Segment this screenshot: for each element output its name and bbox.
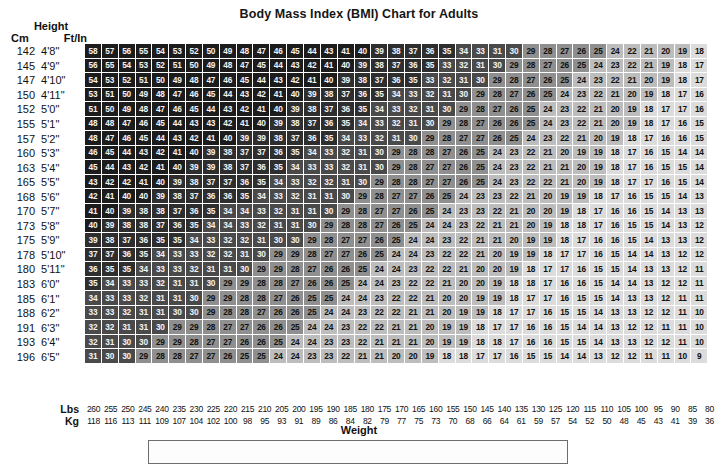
bmi-cell: 18: [557, 233, 574, 248]
bmi-cell: 16: [573, 277, 590, 292]
bmi-cell: 25: [523, 117, 540, 132]
bmi-cell: 38: [321, 88, 338, 103]
bmi-cell: 19: [573, 189, 590, 204]
bmi-cell: 15: [641, 204, 658, 219]
bmi-cell: 42: [152, 146, 169, 161]
table-row: 1525'0"515049484746454443424140393837363…: [0, 102, 708, 117]
bmi-cell: 32: [338, 146, 355, 161]
bmi-cell: 23: [506, 160, 523, 175]
bmi-cell: 27: [371, 219, 388, 234]
bmi-cell: 14: [691, 160, 708, 175]
bmi-cell: 32: [456, 59, 473, 74]
bmi-cell: 31: [169, 277, 186, 292]
bmi-cell: 21: [489, 219, 506, 234]
height-ftin-value: 5'10": [41, 249, 83, 261]
bmi-cell: 20: [456, 277, 473, 292]
bmi-cell: 23: [338, 335, 355, 350]
bmi-cell: 45: [186, 102, 203, 117]
height-row-label: 1856'1": [0, 291, 85, 306]
bmi-cell: 15: [675, 175, 692, 190]
bmi-cell: 23: [590, 73, 607, 88]
bmi-cell: 49: [220, 44, 237, 59]
bmi-cell: 18: [658, 88, 675, 103]
height-cm-value: 170: [0, 205, 41, 217]
height-row-label: 1685'6": [0, 189, 85, 204]
bmi-cell: 44: [119, 146, 136, 161]
table-row: 1454'9"565554535251504948474544434241403…: [0, 59, 708, 74]
height-row-label: 1966'5": [0, 349, 85, 364]
bmi-cell: 11: [691, 262, 708, 277]
bmi-cell: 33: [371, 117, 388, 132]
bmi-cell: 19: [557, 204, 574, 219]
bmi-cell: 54: [85, 73, 102, 88]
bmi-cell: 32: [85, 320, 102, 335]
bmi-cell: 33: [287, 175, 304, 190]
bmi-cell: 34: [186, 233, 203, 248]
bmi-cell: 46: [169, 102, 186, 117]
bmi-row-cells: 3333323131303029282827262625242423222221…: [85, 306, 708, 321]
bmi-cell: 13: [607, 335, 624, 350]
bmi-cell: 28: [405, 146, 422, 161]
bmi-cell: 33: [237, 219, 254, 234]
bmi-cell: 23: [388, 277, 405, 292]
bmi-cell: 29: [186, 320, 203, 335]
bmi-cell: 26: [557, 59, 574, 74]
height-cm-value: 191: [0, 322, 41, 334]
bmi-cell: 31: [304, 204, 321, 219]
bmi-cell: 23: [506, 175, 523, 190]
bmi-cell: 13: [691, 204, 708, 219]
bmi-cell: 11: [641, 349, 658, 364]
bmi-cell: 31: [405, 117, 422, 132]
bmi-cell: 42: [102, 175, 119, 190]
bmi-cell: 35: [203, 204, 220, 219]
weight-tick: 185: [342, 404, 359, 414]
bmi-cell: 18: [540, 248, 557, 263]
bmi-cell: 20: [472, 277, 489, 292]
bmi-cell: 23: [607, 59, 624, 74]
bmi-cell: 28: [371, 189, 388, 204]
bmi-cell: 44: [203, 102, 220, 117]
bmi-cell: 42: [220, 117, 237, 132]
bmi-cell: 57: [102, 44, 119, 59]
bmi-cell: 32: [388, 117, 405, 132]
bmi-cell: 19: [523, 248, 540, 263]
bmi-cell: 30: [304, 219, 321, 234]
bmi-cell: 29: [136, 349, 153, 364]
bmi-cell: 15: [590, 291, 607, 306]
bmi-cell: 18: [523, 277, 540, 292]
bmi-cell: 26: [270, 306, 287, 321]
bmi-cell: 21: [523, 189, 540, 204]
bmi-cell: 12: [658, 335, 675, 350]
bmi-cell: 18: [489, 335, 506, 350]
bmi-cell: 36: [422, 44, 439, 59]
bmi-cell: 23: [506, 146, 523, 161]
bmi-cell: 19: [506, 248, 523, 263]
bmi-cell: 32: [371, 131, 388, 146]
bmi-cell: 39: [237, 131, 254, 146]
weight-tick: 155: [444, 404, 461, 414]
bmi-cell: 18: [472, 335, 489, 350]
bmi-cell: 20: [658, 44, 675, 59]
bmi-row-cells: 3534333332313130292928282726262524242322…: [85, 277, 708, 292]
bmi-cell: 36: [203, 189, 220, 204]
weight-tick: 160: [427, 404, 444, 414]
bmi-cell: 38: [388, 44, 405, 59]
bmi-cell: 25: [388, 233, 405, 248]
bmi-cell: 10: [691, 320, 708, 335]
bmi-cell: 47: [119, 117, 136, 132]
height-row-label: 1785'10": [0, 248, 85, 263]
bmi-cell: 18: [675, 73, 692, 88]
bmi-cell: 23: [304, 349, 321, 364]
bmi-cell: 45: [203, 88, 220, 103]
bmi-cell: 17: [489, 349, 506, 364]
bmi-cell: 28: [203, 320, 220, 335]
bmi-cell: 21: [506, 204, 523, 219]
bmi-cell: 20: [523, 219, 540, 234]
bmi-cell: 12: [624, 349, 641, 364]
bmi-cell: 33: [102, 291, 119, 306]
bmi-cell: 26: [456, 146, 473, 161]
bmi-cell: 24: [371, 277, 388, 292]
bmi-cell: 17: [691, 73, 708, 88]
bmi-cell: 31: [203, 262, 220, 277]
bmi-cell: 42: [287, 73, 304, 88]
